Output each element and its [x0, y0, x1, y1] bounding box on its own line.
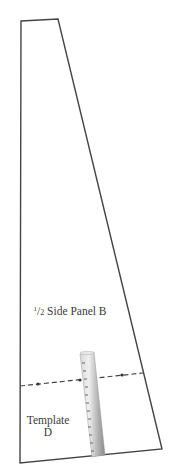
pattern-diagram: 1/2 Side Panel B Template D: [0, 0, 180, 473]
panel-name: Side Panel B: [47, 305, 106, 317]
pattern-svg: [0, 0, 180, 473]
cut-line-marker: [36, 382, 39, 385]
panel-fraction: 1/2: [34, 305, 45, 317]
cut-line-marker: [78, 378, 81, 381]
template-label-line1: Template: [20, 414, 76, 426]
side-panel-label: 1/2 Side Panel B: [30, 305, 110, 317]
template-label-line2: D: [20, 426, 76, 438]
template-label: Template D: [20, 414, 76, 438]
cut-line-marker: [120, 373, 123, 376]
